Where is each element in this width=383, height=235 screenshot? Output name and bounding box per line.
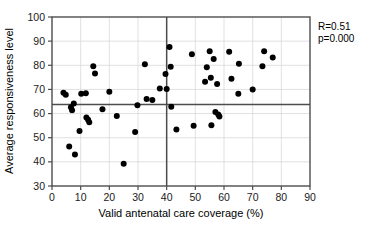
- data-point: [270, 55, 276, 61]
- x-tick-label: 40: [161, 191, 173, 203]
- data-point: [99, 106, 105, 112]
- y-axis-label: Average responsiveness level: [3, 28, 15, 174]
- data-point: [71, 100, 77, 106]
- data-point: [114, 113, 120, 119]
- y-tick-label: 50: [33, 131, 45, 143]
- data-point: [235, 91, 241, 97]
- x-tick-label: 20: [103, 191, 115, 203]
- y-tick-label: 40: [33, 155, 45, 167]
- data-point: [83, 90, 89, 96]
- data-point: [173, 127, 179, 133]
- plot-area-background: [52, 17, 310, 186]
- data-point: [77, 128, 83, 134]
- data-point: [157, 85, 163, 91]
- y-tick-labels: 30405060708090100: [27, 11, 45, 192]
- data-point: [226, 49, 232, 55]
- data-point: [106, 89, 112, 95]
- data-point: [259, 63, 265, 69]
- correlation-annotation: R=0.51: [318, 21, 351, 32]
- data-point: [121, 161, 127, 167]
- pvalue-annotation: p=0.000: [318, 33, 355, 44]
- data-point: [208, 122, 214, 128]
- data-point: [208, 75, 214, 81]
- data-point: [207, 48, 213, 54]
- data-point: [228, 76, 234, 82]
- data-point: [167, 44, 173, 50]
- y-tick-label: 30: [33, 180, 45, 192]
- data-point: [132, 129, 138, 135]
- data-point: [144, 96, 150, 102]
- x-tick-labels: 0102030405060708090: [49, 191, 316, 203]
- y-tick-label: 60: [33, 107, 45, 119]
- data-point: [164, 86, 170, 92]
- data-point: [149, 97, 155, 103]
- y-tick-label: 80: [33, 59, 45, 71]
- data-point: [66, 143, 72, 149]
- x-tick-label: 80: [275, 191, 287, 203]
- data-point: [163, 71, 169, 77]
- data-point: [63, 92, 69, 98]
- data-point: [72, 152, 78, 158]
- y-tick-label: 90: [33, 35, 45, 47]
- x-axis-label: Valid antenatal care coverage (%): [99, 207, 264, 219]
- x-tick-label: 60: [218, 191, 230, 203]
- data-point: [250, 86, 256, 92]
- scatter-chart: 0102030405060708090 30405060708090100 Va…: [0, 0, 383, 235]
- data-point: [236, 61, 242, 67]
- x-tick-label: 10: [75, 191, 87, 203]
- x-tick-label: 30: [132, 191, 144, 203]
- x-tick-label: 70: [247, 191, 259, 203]
- y-tick-label: 70: [33, 83, 45, 95]
- x-tick-label: 50: [189, 191, 201, 203]
- data-point: [189, 51, 195, 57]
- data-point: [90, 63, 96, 69]
- data-point: [191, 123, 197, 129]
- data-point: [261, 48, 267, 54]
- data-point: [134, 102, 140, 108]
- data-point: [215, 112, 221, 118]
- data-point: [204, 64, 210, 70]
- data-point: [92, 70, 98, 76]
- y-tick-label: 100: [27, 11, 45, 23]
- data-point: [168, 104, 174, 110]
- data-point: [211, 56, 217, 62]
- x-tick-label: 90: [304, 191, 316, 203]
- data-point: [202, 79, 208, 85]
- data-point: [69, 107, 75, 113]
- data-point: [142, 61, 148, 67]
- data-point: [168, 64, 174, 70]
- x-tick-label: 0: [49, 191, 55, 203]
- data-point: [214, 81, 220, 87]
- data-point: [86, 119, 92, 125]
